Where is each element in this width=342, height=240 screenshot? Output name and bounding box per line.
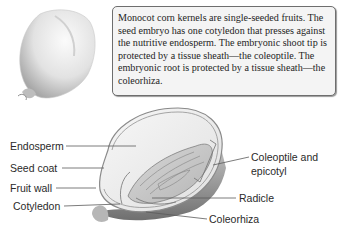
whole-kernel-image bbox=[18, 10, 95, 100]
kernel-cross-section-image bbox=[92, 108, 226, 222]
label-endosperm: Endosperm bbox=[10, 140, 64, 152]
corn-kernel-diagram: Monocot corn kernels are single-seeded f… bbox=[0, 0, 342, 240]
label-coleoptile-line1: Coleoptile and bbox=[251, 151, 318, 163]
label-cotyledon: Cotyledon bbox=[13, 200, 60, 212]
label-seed-coat: Seed coat bbox=[10, 162, 57, 174]
label-coleorhiza: Coleorhiza bbox=[209, 213, 259, 225]
caption-box: Monocot corn kernels are single-seeded f… bbox=[112, 6, 336, 96]
label-radicle: Radicle bbox=[239, 192, 274, 204]
label-coleoptile-line2: epicotyl bbox=[251, 165, 287, 177]
label-fruit-wall: Fruit wall bbox=[10, 182, 52, 194]
caption-text: Monocot corn kernels are single-seeded f… bbox=[118, 12, 327, 86]
